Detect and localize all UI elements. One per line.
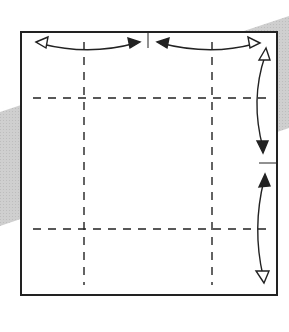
- paper-square: [21, 32, 277, 295]
- origami-diagram: [0, 0, 289, 332]
